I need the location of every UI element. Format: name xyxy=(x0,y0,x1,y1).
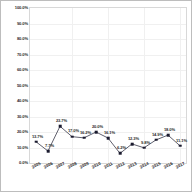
x-axis-tick-label: 2015 xyxy=(151,162,161,170)
data-point-marker xyxy=(155,139,158,142)
plot-area: 0.0%10.0%20.0%30.0%40.0%50.0%60.0%70.0%8… xyxy=(29,7,187,164)
data-point-label: 12.3% xyxy=(128,137,139,141)
data-point-label: 16.2% xyxy=(80,131,91,135)
data-point-marker xyxy=(47,150,50,153)
y-axis-tick-label: 60.0% xyxy=(17,68,28,72)
data-point-marker xyxy=(83,137,86,140)
x-axis-tick-label: 2006 xyxy=(43,162,53,170)
x-axis-tick-label: 2016 xyxy=(163,162,173,170)
y-axis-tick-label: 90.0% xyxy=(17,21,28,25)
data-point-label: 9.8% xyxy=(141,141,150,145)
data-point-marker xyxy=(167,134,170,137)
data-point-marker xyxy=(107,137,110,140)
data-point-marker xyxy=(59,125,62,128)
y-axis-tick-label: 20.0% xyxy=(17,130,28,134)
data-point-label: 17.0% xyxy=(68,129,79,133)
data-point-label: 11.1% xyxy=(176,139,187,143)
x-axis-tick-label: 2017 xyxy=(175,162,185,170)
data-point-marker xyxy=(131,143,134,146)
data-point-label: 7.7% xyxy=(45,144,54,148)
x-axis-tick-label: 2009 xyxy=(79,162,89,170)
data-point-label: 14.9% xyxy=(152,133,163,137)
x-axis-tick-label: 2013 xyxy=(127,162,137,170)
y-axis-tick-label: 40.0% xyxy=(17,99,28,103)
x-axis-tick-label: 2014 xyxy=(139,162,149,170)
data-point-label: 20.0% xyxy=(92,125,103,129)
data-point-label: 23.7% xyxy=(56,119,67,123)
y-axis-tick-label: 10.0% xyxy=(17,145,28,149)
data-point-marker xyxy=(143,147,146,150)
y-axis-tick-label: 100.0% xyxy=(15,6,28,10)
data-point-label: 16.1% xyxy=(104,131,115,135)
data-point-label: 18.0% xyxy=(164,128,175,132)
chart-frame: 0.0%10.0%20.0%30.0%40.0%50.0%60.0%70.0%8… xyxy=(0,0,192,192)
x-axis-tick-label: 2011 xyxy=(104,162,114,170)
data-point-marker xyxy=(71,135,74,138)
y-axis-tick-label: 80.0% xyxy=(17,37,28,41)
data-point-marker xyxy=(119,152,122,155)
x-axis-tick-label: 2012 xyxy=(115,162,125,170)
y-axis-tick-label: 70.0% xyxy=(17,52,28,56)
data-point-marker xyxy=(95,131,98,134)
data-point-marker xyxy=(179,144,182,147)
data-point-label: 6.2% xyxy=(117,146,126,150)
data-point-marker xyxy=(35,140,38,143)
data-point-label: 13.7% xyxy=(32,134,43,138)
y-axis-tick-label: 30.0% xyxy=(17,114,28,118)
x-axis-tick-label: 2008 xyxy=(67,162,77,170)
y-axis-tick-label: 50.0% xyxy=(17,83,28,87)
x-axis-tick-label: 2010 xyxy=(91,162,101,170)
x-axis-tick-label: 2007 xyxy=(55,162,65,170)
y-axis-tick-label: 0.0% xyxy=(19,161,28,165)
x-axis-tick-label: 2005 xyxy=(31,162,41,170)
